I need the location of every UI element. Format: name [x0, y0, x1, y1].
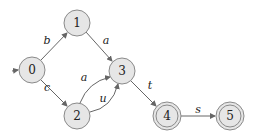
svg-text:2: 2	[73, 109, 81, 123]
state-1: 1	[64, 10, 90, 36]
initial-arrow	[12, 70, 18, 71]
svg-text:0: 0	[28, 63, 36, 77]
state-5-accepting: 5	[216, 102, 244, 130]
svg-text:1: 1	[73, 16, 81, 30]
edge-label-a-1: a	[103, 34, 110, 47]
automaton-diagram: b c a a u t s 0 1 2 3 4 5	[0, 0, 258, 137]
state-3: 3	[109, 58, 135, 84]
edge-label-c: c	[44, 81, 50, 94]
edge-3-4	[131, 81, 156, 106]
svg-text:3: 3	[118, 64, 126, 78]
edge-label-t: t	[148, 79, 153, 92]
edge-label-u: u	[99, 92, 106, 105]
edge-label-b: b	[43, 34, 50, 47]
edge-label-s: s	[195, 103, 201, 116]
state-0: 0	[19, 57, 45, 83]
state-4-accepting: 4	[153, 102, 181, 130]
svg-text:4: 4	[163, 109, 171, 123]
state-2: 2	[64, 103, 90, 129]
svg-text:5: 5	[226, 109, 234, 123]
edge-label-a-2: a	[81, 71, 88, 84]
